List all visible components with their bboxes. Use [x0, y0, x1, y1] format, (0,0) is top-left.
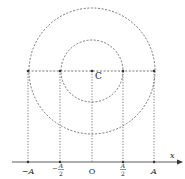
tick-label-origin: O — [89, 167, 96, 176]
reference-circle-diagram: C x −A − A 2 O A 2 A — [0, 0, 185, 179]
svg-text:−: − — [52, 165, 58, 173]
svg-text:2: 2 — [121, 170, 125, 177]
center-label: C — [95, 71, 102, 81]
axis-label: x — [170, 151, 175, 160]
svg-text:A: A — [58, 162, 64, 169]
tick-label-minus-a: −A — [22, 167, 35, 176]
tick-label-minus-half-a: − A 2 — [52, 162, 64, 177]
tick-label-a: A — [150, 167, 157, 176]
x-axis-arrow-icon — [177, 160, 183, 165]
tick-label-half-a: A 2 — [120, 162, 126, 177]
svg-text:A: A — [120, 162, 126, 169]
svg-text:2: 2 — [59, 170, 63, 177]
